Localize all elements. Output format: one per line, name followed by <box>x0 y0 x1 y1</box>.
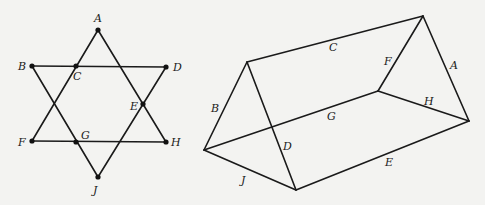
label-C: C <box>73 70 82 83</box>
label-F-prism: F <box>383 55 392 68</box>
vertex-G <box>73 139 78 144</box>
vertex-J <box>95 174 100 179</box>
label-A: A <box>93 12 102 25</box>
edge-B-J <box>32 66 98 177</box>
label-A-prism: A <box>449 59 458 72</box>
label-E: E <box>129 100 138 113</box>
vertex-H <box>163 139 168 144</box>
edge-F-H <box>32 141 166 142</box>
label-B-prism: B <box>210 102 219 115</box>
label-H: H <box>170 136 181 149</box>
vertex-C <box>73 63 78 68</box>
prism-graph: C B D J G E F A H <box>204 16 469 190</box>
label-D: D <box>172 61 182 74</box>
edge-D <box>247 62 296 190</box>
vertex-B <box>29 63 34 68</box>
edge-A-H <box>98 30 166 142</box>
vertex-A <box>95 27 100 32</box>
label-F: F <box>17 136 26 149</box>
label-H-prism: H <box>423 95 434 108</box>
diagram-canvas: A B C D E F G H J C B D J G E F A H <box>0 0 485 205</box>
vertex-F <box>29 138 34 143</box>
label-J: J <box>91 184 98 197</box>
edge-A-F <box>32 30 98 141</box>
label-E-prism: E <box>384 156 393 169</box>
edge-E <box>296 121 469 190</box>
label-C-prism: C <box>329 41 338 54</box>
label-B: B <box>17 60 26 73</box>
edge-B-D <box>32 66 166 67</box>
star-graph: A B C D E F G H J <box>17 12 182 197</box>
label-G-prism: G <box>327 110 336 123</box>
edge-C <box>247 16 423 62</box>
label-G: G <box>81 129 90 142</box>
vertex-E <box>140 101 145 106</box>
label-D-prism: D <box>282 140 292 153</box>
edge-F <box>378 16 423 91</box>
edge-D-J <box>98 67 166 177</box>
vertex-D <box>163 64 168 69</box>
label-J-prism: J <box>239 174 246 187</box>
